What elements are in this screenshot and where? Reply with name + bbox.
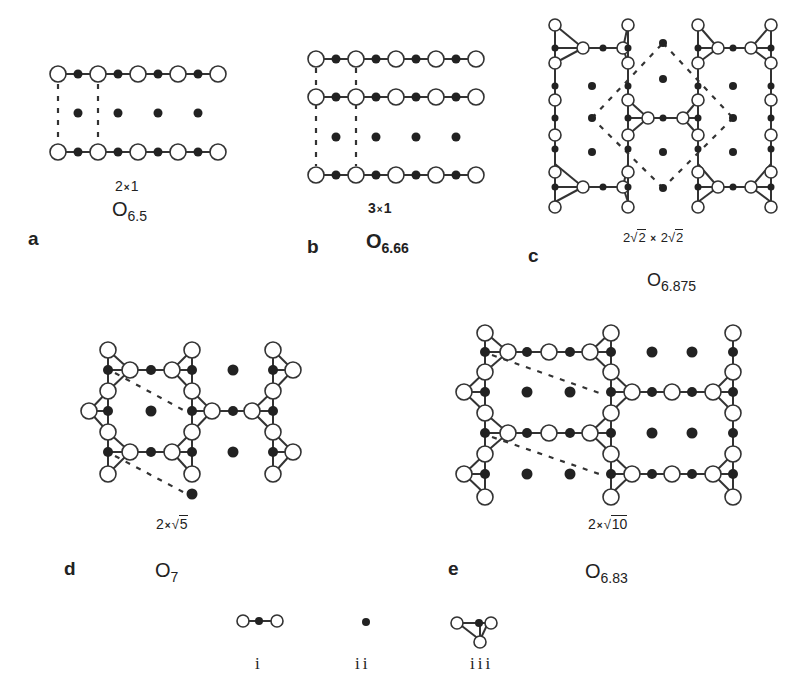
panel-c-letter: c xyxy=(528,245,539,267)
ox-sub: 6.66 xyxy=(382,240,409,256)
panel-b-cell-label: 3×1 xyxy=(368,200,391,216)
cell-radicand: 2 xyxy=(675,229,683,245)
panel-e-stoichiometry: O6.83 xyxy=(585,560,628,586)
ox-base: O xyxy=(155,559,171,581)
legend-label-iii: iii xyxy=(470,654,493,674)
sqrt-icon: √ xyxy=(604,517,611,532)
sqrt-icon: √ xyxy=(668,230,675,245)
cell-radicand: 5 xyxy=(179,515,188,532)
legend-label-ii: ii xyxy=(355,654,370,674)
cell-prefix: 3 xyxy=(368,200,376,216)
panel-c-stoichiometry: O6.875 xyxy=(647,270,696,294)
cell-prefix: 2 xyxy=(115,178,123,194)
cell-prefix: 2 xyxy=(661,230,668,245)
cell-suffix: 1 xyxy=(131,178,139,194)
ox-base: O xyxy=(112,198,128,220)
cell-prefix: 2 xyxy=(588,516,596,532)
cell-sep: × xyxy=(597,520,603,531)
panel-a-stoichiometry: O6.5 xyxy=(112,198,147,224)
panel-e-cell-label: 2×√10 xyxy=(588,516,627,532)
ox-sub: 6.83 xyxy=(601,570,628,586)
panel-d-stoichiometry: O7 xyxy=(155,559,178,585)
cell-suffix: 1 xyxy=(384,200,392,216)
ox-base: O xyxy=(366,230,382,252)
ox-sub: 7 xyxy=(171,569,179,585)
cell-sep: × xyxy=(650,233,656,244)
ox-sub: 6.875 xyxy=(661,278,696,294)
sqrt-icon: √ xyxy=(172,517,179,532)
panel-e-letter: e xyxy=(448,558,459,580)
panel-d-letter: d xyxy=(64,558,76,580)
panel-b-stoichiometry: O6.66 xyxy=(366,230,409,256)
panel-d-cell-label: 2×√5 xyxy=(156,516,188,532)
ox-base: O xyxy=(585,560,601,582)
panel-b-letter: b xyxy=(307,236,319,258)
ox-sub: 6.5 xyxy=(128,208,147,224)
panel-a-letter: a xyxy=(28,228,39,250)
legend-label-i: i xyxy=(255,654,263,674)
filled-atoms xyxy=(74,39,775,627)
panel-a-cell-label: 2×1 xyxy=(115,178,138,194)
cell-prefix: 2 xyxy=(156,516,164,532)
cell-sep: × xyxy=(377,204,383,215)
structure-diagram xyxy=(0,0,797,695)
cell-sep: × xyxy=(124,182,130,193)
cell-radicand: 10 xyxy=(611,515,628,532)
cell-sep: × xyxy=(165,520,171,531)
cell-radicand: 2 xyxy=(637,229,645,245)
ox-base: O xyxy=(647,270,661,290)
panel-c-cell-label: 2√2 × 2√2 xyxy=(623,230,683,245)
